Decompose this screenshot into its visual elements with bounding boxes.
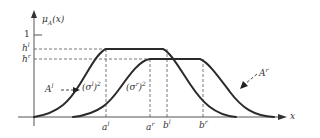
curve-upper-membership <box>73 59 274 117</box>
b-r-sup: r <box>205 118 208 125</box>
tick-label-a-r: ar <box>146 123 154 132</box>
tick-label-h-r: hr <box>22 55 31 64</box>
sigma-upper-open: (σ <box>126 82 136 92</box>
h-r-sup: r <box>28 52 31 59</box>
label-sigma-lower: (σl)2 <box>82 83 101 92</box>
sigma-lower-pow: 2 <box>97 80 101 87</box>
label-curve-lower: Al <box>45 85 53 94</box>
y-axis-label: μA(x) <box>42 15 64 24</box>
x-axis-label: x <box>290 112 295 121</box>
y-axis-arrow-icon <box>31 10 37 18</box>
a-r-sup: r <box>151 120 154 127</box>
sigma-upper-pow: 2 <box>142 80 146 87</box>
mu-argument: (x) <box>52 14 64 24</box>
x-axis-arrow-icon <box>278 114 287 120</box>
tick-label-b-l: bl <box>163 121 171 130</box>
curve-upper-sup: r <box>266 66 269 73</box>
h-l-sup: l <box>28 41 30 48</box>
b-l-sup: l <box>169 118 171 125</box>
a-l-sup: l <box>107 120 109 127</box>
sigma-lower-open: (σ <box>82 82 92 92</box>
label-curve-upper: Ar <box>259 69 268 78</box>
curve-lower-sup: l <box>52 82 54 89</box>
arrow-upper-head-icon <box>240 81 248 89</box>
tick-label-a-l: al <box>102 123 109 132</box>
arrow-upper-dashed <box>245 74 257 84</box>
tick-label-one: 1 <box>24 30 30 39</box>
label-sigma-upper: (σr)2 <box>126 83 146 92</box>
tick-label-b-r: br <box>199 121 208 130</box>
